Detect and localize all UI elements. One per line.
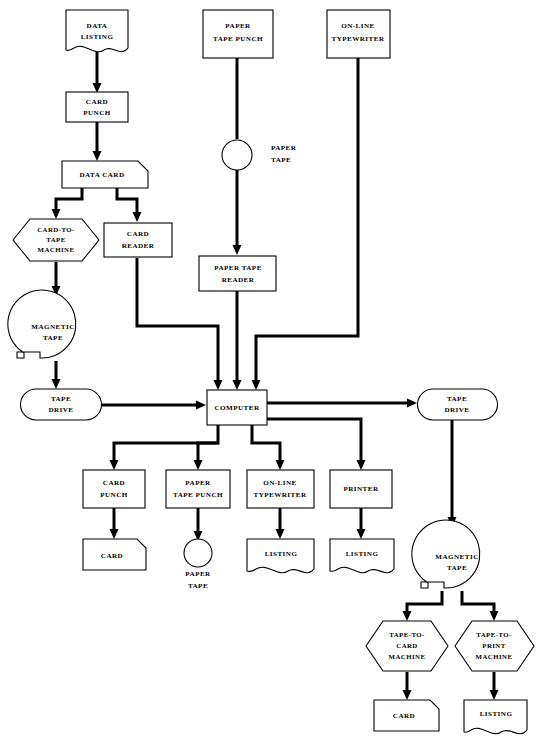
node-label: LISTING bbox=[81, 33, 114, 41]
connector-datacard-to-cardreader bbox=[117, 188, 137, 214]
node-label: TAPE PUNCH bbox=[213, 35, 263, 43]
process-shape bbox=[66, 92, 128, 122]
node-label: DRIVE bbox=[444, 406, 469, 414]
node-label: TAPE bbox=[46, 236, 65, 243]
node-tape-to-card-machine[interactable]: TAPE-TO- CARD MACHINE bbox=[366, 621, 448, 671]
node-listing-typewriter[interactable]: LISTING bbox=[247, 539, 314, 573]
node-label: PRINT bbox=[482, 642, 505, 649]
node-label: CARD bbox=[86, 98, 108, 106]
process-shape bbox=[104, 223, 172, 257]
arrowhead-tapetocard-to-card bbox=[403, 690, 412, 700]
node-label: MAGNETIC bbox=[435, 553, 478, 561]
node-card-reader[interactable]: CARD READER bbox=[104, 223, 172, 257]
arrowhead-computer-to-tapedriveright bbox=[407, 399, 417, 408]
process-shape bbox=[83, 470, 145, 508]
node-label: TAPE bbox=[43, 334, 63, 342]
node-listing-final[interactable]: LISTING bbox=[464, 700, 527, 734]
node-tape-drive-right[interactable]: TAPE DRIVE bbox=[418, 389, 498, 420]
node-label: MAGNETIC bbox=[31, 323, 74, 331]
arrowhead-datacard-to-cardreader bbox=[133, 212, 142, 222]
paper-tape-shape bbox=[222, 140, 252, 170]
arrowhead-typewritertop-to-computer bbox=[252, 380, 261, 390]
node-label: READER bbox=[222, 276, 255, 284]
node-label: CARD bbox=[127, 230, 149, 238]
arrowhead-cardpunchout-to-card bbox=[110, 529, 119, 539]
arrowhead-magtaperight-to-tapetocard bbox=[403, 611, 412, 621]
node-card-punch-top[interactable]: CARD PUNCH bbox=[66, 92, 128, 122]
flowchart-canvas: DATA LISTING CARD PUNCH DATA CARD CARD-T… bbox=[0, 0, 544, 751]
connector-magtaperight-to-tapetocard bbox=[407, 591, 442, 613]
node-paper-tape-reader[interactable]: PAPER TAPE READER bbox=[199, 256, 276, 291]
arrowhead-cardpunch-to-datacard bbox=[93, 151, 102, 161]
node-paper-tape-punch-top[interactable]: PAPER TAPE PUNCH bbox=[203, 10, 273, 58]
node-label: TAPE bbox=[447, 564, 467, 572]
node-label: DATA bbox=[87, 22, 108, 30]
node-label: TAPE-TO- bbox=[389, 631, 425, 638]
process-shape bbox=[166, 470, 230, 508]
process-shape bbox=[199, 256, 276, 291]
node-label: CARD bbox=[393, 712, 415, 720]
node-label: TAPE bbox=[188, 582, 208, 590]
node-label: PAPER bbox=[225, 22, 251, 30]
arrowhead-computer-to-printer bbox=[357, 460, 366, 470]
node-tape-drive-left[interactable]: TAPE DRIVE bbox=[20, 389, 101, 420]
node-label: TYPEWRITER bbox=[254, 491, 307, 499]
node-paper-tape-top[interactable]: PAPER TAPE bbox=[222, 140, 297, 170]
arrowhead-magtape-to-tapedrive bbox=[52, 379, 61, 389]
arrowhead-papertape-to-reader bbox=[233, 245, 242, 255]
process-shape bbox=[247, 470, 314, 508]
node-card-out[interactable]: CARD bbox=[83, 539, 146, 570]
arrowhead-tapetoprint-to-listing bbox=[490, 690, 499, 700]
connector-computer-to-typewriterout bbox=[252, 425, 280, 462]
node-label: LISTING bbox=[346, 550, 379, 558]
node-label: LISTING bbox=[265, 550, 298, 558]
node-label: ON-LINE bbox=[341, 22, 375, 30]
node-label: TYPEWRITER bbox=[332, 35, 385, 43]
node-magnetic-tape-left[interactable]: MAGNETIC TAPE bbox=[8, 290, 76, 358]
arrowhead-printer-to-listing bbox=[357, 529, 366, 539]
node-label: CARD bbox=[103, 479, 125, 487]
arrowhead-computer-to-cardpunchout bbox=[110, 460, 119, 470]
node-label: PRINTER bbox=[343, 485, 379, 493]
node-label: TAPE bbox=[447, 395, 467, 403]
arrowhead-typewriterout-to-listing bbox=[276, 529, 285, 539]
node-card-final[interactable]: CARD bbox=[374, 700, 439, 731]
node-magnetic-tape-right[interactable]: MAGNETIC TAPE bbox=[412, 520, 480, 588]
node-online-typewriter-top[interactable]: ON-LINE TYPEWRITER bbox=[327, 10, 390, 58]
node-label: CARD bbox=[101, 552, 123, 560]
node-paper-tape-punch-out[interactable]: PAPER TAPE PUNCH bbox=[166, 470, 230, 508]
node-label: TAPE bbox=[271, 156, 291, 164]
arrowhead-datacard-to-cardtotape bbox=[52, 209, 61, 219]
node-label: TAPE bbox=[51, 395, 71, 403]
node-label: PAPER bbox=[271, 144, 297, 152]
node-card-punch-out[interactable]: CARD PUNCH bbox=[83, 470, 145, 508]
node-label: MACHINE bbox=[38, 246, 75, 253]
document-shape bbox=[66, 10, 128, 52]
connector-typewritertop-to-computer bbox=[256, 58, 358, 381]
node-data-listing[interactable]: DATA LISTING bbox=[66, 10, 128, 52]
node-listing-printer[interactable]: LISTING bbox=[330, 539, 394, 573]
arrowhead-papertapereader-to-computer bbox=[233, 380, 242, 390]
data-processing-flowchart: DATA LISTING CARD PUNCH DATA CARD CARD-T… bbox=[0, 0, 544, 751]
node-data-card[interactable]: DATA CARD bbox=[62, 161, 148, 188]
node-label: CARD-TO- bbox=[37, 226, 75, 233]
arrowhead-computer-to-papertapepunchout bbox=[194, 460, 203, 470]
node-card-to-tape-machine[interactable]: CARD-TO- TAPE MACHINE bbox=[13, 219, 99, 261]
node-label: DRIVE bbox=[48, 406, 73, 414]
node-tape-to-print-machine[interactable]: TAPE-TO- PRINT MACHINE bbox=[455, 621, 534, 671]
node-label: PAPER bbox=[185, 570, 211, 578]
node-label: TAPE-TO- bbox=[476, 631, 512, 638]
node-label: CARD bbox=[396, 642, 417, 649]
node-label: COMPUTER bbox=[215, 404, 260, 412]
connector-magtaperight-to-tapetoprint bbox=[462, 591, 494, 613]
paper-tape-shape bbox=[184, 539, 212, 567]
arrowhead-tapedriveleft-to-computer bbox=[196, 401, 206, 410]
node-computer[interactable]: COMPUTER bbox=[207, 390, 267, 425]
connector-computer-to-papertapepunchout bbox=[198, 443, 218, 462]
node-printer[interactable]: PRINTER bbox=[330, 470, 392, 508]
node-label: READER bbox=[122, 242, 155, 250]
node-online-typewriter-out[interactable]: ON-LINE TYPEWRITER bbox=[247, 470, 314, 508]
node-label: LISTING bbox=[480, 710, 513, 718]
node-label: PAPER TAPE bbox=[214, 264, 262, 272]
node-paper-tape-out[interactable]: PAPER TAPE bbox=[184, 539, 212, 590]
